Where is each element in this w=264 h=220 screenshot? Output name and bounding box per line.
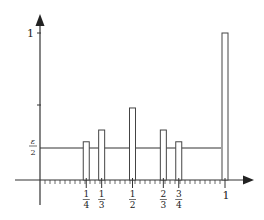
x-axis-arrow-icon: [243, 176, 254, 185]
bar-1: [222, 33, 228, 180]
svg-text:1: 1: [99, 189, 105, 199]
svg-text:3: 3: [99, 200, 105, 210]
x-fraction-label: 23: [160, 189, 167, 210]
y-label-one: 1: [27, 27, 34, 40]
epsilon-label-den: 2: [30, 148, 35, 157]
epsilon-label-num: ε: [31, 137, 35, 146]
x-fraction-label: 12: [129, 189, 136, 210]
x-fraction-label: 14: [83, 189, 90, 210]
bar-2-3: [160, 130, 166, 180]
bar-1-3: [99, 130, 105, 180]
svg-text:1: 1: [83, 189, 89, 199]
svg-text:1: 1: [130, 189, 136, 199]
svg-text:2: 2: [160, 189, 166, 199]
bar-1-4: [83, 142, 89, 180]
svg-text:3: 3: [176, 189, 182, 199]
svg-text:2: 2: [130, 200, 136, 210]
bar-3-4: [176, 142, 182, 180]
x-label-one: 1: [223, 189, 230, 202]
svg-text:4: 4: [83, 200, 89, 210]
y-axis-arrow-icon: [36, 14, 45, 26]
bar-chart: 1 ε 2 14131223341: [0, 0, 264, 220]
svg-text:3: 3: [160, 200, 166, 210]
x-fraction-label: 13: [98, 189, 105, 210]
x-fraction-label: 34: [175, 189, 182, 210]
bars: [83, 33, 228, 180]
svg-text:4: 4: [176, 200, 182, 210]
bar-1-2: [130, 108, 136, 180]
